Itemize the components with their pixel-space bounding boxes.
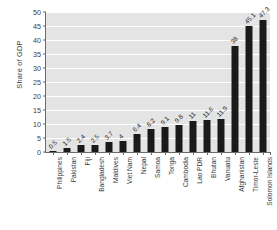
x-tick-label: Tonga bbox=[168, 157, 175, 221]
x-tick-mark bbox=[263, 152, 264, 155]
x-tick-label: Fiji bbox=[84, 157, 91, 221]
y-tick-label: 20 bbox=[33, 92, 41, 101]
bar-value-label: 38 bbox=[229, 35, 239, 45]
y-tick-label: 50 bbox=[33, 8, 41, 17]
bar-group[interactable]: 8.2 bbox=[144, 12, 158, 152]
bar-value-label: 2.5 bbox=[89, 133, 100, 144]
bar[interactable] bbox=[204, 120, 211, 152]
bar-group[interactable]: 9.8 bbox=[172, 12, 186, 152]
bar[interactable] bbox=[120, 141, 127, 152]
x-tick-mark bbox=[165, 152, 166, 155]
x-tick-label: Samoa bbox=[154, 157, 161, 221]
x-tick-mark bbox=[235, 152, 236, 155]
bar[interactable] bbox=[232, 46, 239, 152]
y-tick-label: 15 bbox=[33, 106, 41, 115]
bar-value-label: 8.2 bbox=[145, 117, 156, 128]
x-tick-label: Lao PDR bbox=[196, 157, 203, 221]
bar[interactable] bbox=[260, 20, 267, 152]
x-tick-mark bbox=[207, 152, 208, 155]
x-tick-mark bbox=[53, 152, 54, 155]
y-tick-label: 5 bbox=[37, 134, 41, 143]
y-tick-label: 40 bbox=[33, 36, 41, 45]
x-tick-label: Cambodia bbox=[182, 157, 189, 221]
bar-group[interactable]: 11.6 bbox=[200, 12, 214, 152]
bar-value-label: 0.5 bbox=[47, 138, 58, 149]
bar[interactable] bbox=[246, 26, 253, 152]
y-axis-title: Share of GDP bbox=[15, 20, 24, 110]
bar-group[interactable]: 9.1 bbox=[158, 12, 172, 152]
y-tick-label: 10 bbox=[33, 120, 41, 129]
x-tick-label: Solomon Islands bbox=[266, 157, 273, 221]
bar-chart: Share of GDP 05101520253035404550 0.51.5… bbox=[0, 0, 277, 230]
bar-group[interactable]: 1.5 bbox=[60, 12, 74, 152]
x-tick-label: Maldives bbox=[112, 157, 119, 221]
bar[interactable] bbox=[176, 125, 183, 152]
y-tick-label: 35 bbox=[33, 50, 41, 59]
bar-series: 0.51.52.42.53.746.48.29.19.81111.611.938… bbox=[46, 12, 270, 152]
x-tick-mark bbox=[137, 152, 138, 155]
bar-group[interactable]: 4 bbox=[116, 12, 130, 152]
x-tick-label: Bhutan bbox=[210, 157, 217, 221]
bar[interactable] bbox=[106, 142, 113, 152]
x-axis-ticks bbox=[46, 152, 270, 156]
bar-value-label: 9.1 bbox=[159, 114, 170, 125]
x-tick-mark bbox=[151, 152, 152, 155]
x-tick-label: Philippines bbox=[56, 157, 63, 221]
x-tick-label: Nepal bbox=[140, 157, 147, 221]
x-tick-label: Bangladesh bbox=[98, 157, 105, 221]
x-tick-mark bbox=[221, 152, 222, 155]
bar-group[interactable]: 2.4 bbox=[74, 12, 88, 152]
x-tick-mark bbox=[81, 152, 82, 155]
bar-group[interactable]: 0.5 bbox=[46, 12, 60, 152]
x-tick-label: Pakistan bbox=[70, 157, 77, 221]
x-tick-label: Vanuatu bbox=[224, 157, 231, 221]
bar-value-label: 9.8 bbox=[173, 112, 184, 123]
bar-value-label: 45.1 bbox=[243, 11, 257, 25]
x-tick-mark bbox=[67, 152, 68, 155]
bar-value-label: 4 bbox=[117, 132, 124, 139]
x-tick-mark bbox=[249, 152, 250, 155]
bar-value-label: 11.6 bbox=[201, 105, 214, 118]
y-tick-label: 45 bbox=[33, 22, 41, 31]
y-tick-label: 0 bbox=[37, 148, 41, 157]
x-tick-mark bbox=[95, 152, 96, 155]
y-tick-label: 25 bbox=[33, 78, 41, 87]
bar-group[interactable]: 47.3 bbox=[256, 12, 270, 152]
x-tick-mark bbox=[109, 152, 110, 155]
bar-value-label: 11 bbox=[187, 111, 197, 121]
bar-value-label: 2.4 bbox=[75, 133, 86, 144]
bar-group[interactable]: 3.7 bbox=[102, 12, 116, 152]
bar-group[interactable]: 45.1 bbox=[242, 12, 256, 152]
x-tick-mark bbox=[179, 152, 180, 155]
bar-value-label: 47.3 bbox=[257, 5, 271, 19]
bar[interactable] bbox=[92, 145, 99, 152]
bar[interactable] bbox=[162, 127, 169, 152]
bar-group[interactable]: 11 bbox=[186, 12, 200, 152]
bar[interactable] bbox=[190, 121, 197, 152]
bar[interactable] bbox=[78, 145, 85, 152]
bar[interactable] bbox=[148, 129, 155, 152]
bar[interactable] bbox=[218, 119, 225, 152]
bar-value-label: 6.4 bbox=[131, 122, 142, 133]
bar-group[interactable]: 11.9 bbox=[214, 12, 228, 152]
x-tick-label: Viet Nam bbox=[126, 157, 133, 221]
bar-group[interactable]: 38 bbox=[228, 12, 242, 152]
x-axis-labels: PhilippinesPakistanFijiBangladeshMaldive… bbox=[46, 157, 270, 227]
x-tick-mark bbox=[193, 152, 194, 155]
y-tick-label: 30 bbox=[33, 64, 41, 73]
bar-value-label: 1.5 bbox=[61, 136, 72, 147]
bar[interactable] bbox=[134, 134, 141, 152]
x-tick-mark bbox=[123, 152, 124, 155]
bar-value-label: 3.7 bbox=[103, 129, 114, 140]
bar-value-label: 11.9 bbox=[215, 104, 228, 117]
x-tick-label: Timor-Leste bbox=[252, 157, 259, 221]
bar-group[interactable]: 6.4 bbox=[130, 12, 144, 152]
x-tick-label: Afghanistan bbox=[238, 157, 245, 221]
bar-group[interactable]: 2.5 bbox=[88, 12, 102, 152]
x-tick-mark bbox=[270, 152, 271, 155]
